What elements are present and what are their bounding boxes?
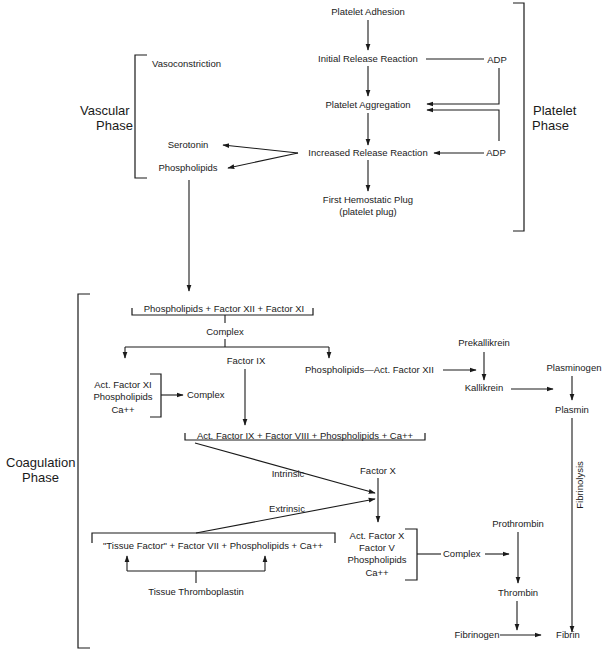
vascular-phase-bracket: Vascular Phase: [80, 55, 147, 178]
intrinsic-label: Intrinsic: [272, 468, 305, 479]
factor-x: Factor X: [360, 465, 397, 476]
vascular-phase-label-2: Phase: [96, 118, 133, 133]
coagulation-phase-bracket: Coagulation Phase: [6, 294, 90, 648]
platelet-phase-label-1: Platelet: [533, 103, 577, 118]
calcium-x: Ca++: [365, 567, 389, 578]
phospholipids-act-factor-xii: Phospholipids—Act. Factor XII: [305, 364, 434, 375]
intrinsic-group: Act. Factor IX + Factor VIII + Phospholi…: [197, 430, 414, 441]
phospholipids-xi: Phospholipids: [93, 391, 152, 402]
prekallikrein: Prekallikrein: [458, 337, 510, 348]
act-factor-x: Act. Factor X: [350, 530, 406, 541]
serotonin: Serotonin: [168, 139, 209, 150]
prothrombin: Prothrombin: [492, 518, 544, 529]
factor-v: Factor V: [359, 542, 396, 553]
calcium-xi: Ca++: [111, 404, 135, 415]
plasmin: Plasmin: [555, 404, 589, 415]
platelet-adhesion: Platelet Adhesion: [331, 6, 404, 17]
factor-ix: Factor IX: [227, 355, 266, 366]
vascular-phase-label-1: Vascular: [80, 103, 130, 118]
complex-1: Complex: [206, 326, 244, 337]
complex-3: Complex: [443, 548, 481, 559]
kallikrein: Kallikrein: [465, 382, 504, 393]
plasminogen: Plasminogen: [547, 362, 602, 373]
platelet-phase-label-2: Phase: [532, 118, 569, 133]
phospholipids-x: Phospholipids: [347, 554, 406, 565]
act-factor-xi: Act. Factor XI: [94, 379, 152, 390]
vasoconstriction: Vasoconstriction: [152, 58, 221, 69]
adp-1: ADP: [487, 54, 507, 65]
first-hemostatic-plug: First Hemostatic Plug: [323, 194, 413, 205]
increased-release-reaction: Increased Release Reaction: [308, 147, 427, 158]
thrombin: Thrombin: [498, 587, 538, 598]
adp-2: ADP: [486, 147, 506, 158]
tissue-thromboplastin: Tissue Thromboplastin: [148, 586, 244, 597]
complex-2: Complex: [187, 389, 225, 400]
contact-activation-group: Phospholipids + Factor XII + Factor XI: [144, 303, 305, 314]
platelet-plug: (platelet plug): [339, 206, 397, 217]
phospholipids-vascular: Phospholipids: [158, 162, 217, 173]
coagulation-phase-label-1: Coagulation: [6, 455, 75, 470]
platelet-phase-bracket: Platelet Phase: [513, 3, 577, 231]
extrinsic-label: Extrinsic: [269, 503, 305, 514]
fibrin: Fibrin: [556, 629, 580, 640]
extrinsic-group: "Tissue Factor" + Factor VII + Phospholi…: [103, 540, 323, 551]
platelet-aggregation: Platelet Aggregation: [325, 99, 410, 110]
coagulation-phase-label-2: Phase: [22, 470, 59, 485]
fibrinogen: Fibrinogen: [455, 629, 500, 640]
hemostasis-diagram: Platelet Phase Vascular Phase Coagulatio…: [0, 0, 605, 659]
fibrinolysis-label: Fibrinolysis: [574, 461, 585, 509]
initial-release-reaction: Initial Release Reaction: [318, 53, 418, 64]
